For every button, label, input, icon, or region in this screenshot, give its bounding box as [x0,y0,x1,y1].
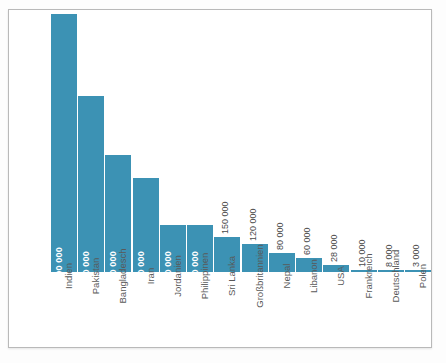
plot-area: 1 100 000750 000500 000400 000200 000200… [21,14,425,341]
category-label-frankreich: Frankreich [364,254,374,299]
bar-slot: 10 000 [351,14,377,272]
category-label-iran: Iran [146,268,156,284]
bar-pakistan[interactable] [78,96,104,272]
category-slot: Großbritannien [242,276,268,358]
category-label-indien: Indien [64,263,74,289]
bar-slot: 400 000 [133,14,159,272]
category-slot: Deutschland [378,276,404,358]
bar-slot: 120 000 [242,14,268,272]
category-label-libanon: Libanon [309,259,319,293]
category-slot: Pakistan [78,276,104,358]
bar-slot: 200 000 [187,14,213,272]
category-label-bangladesch: Bangladesch [118,249,128,304]
category-slot: Iran [133,276,159,358]
bar-value-label: 150 000 [221,201,230,234]
category-label-deutschland: Deutschland [391,250,401,303]
bar-slot: 1 100 000 [51,14,77,272]
bar-slot: 500 000 [105,14,131,272]
bar-indien[interactable] [51,14,77,272]
category-slot: Nepal [269,276,295,358]
category-slot: Bangladesch [105,276,131,358]
bar-value-label: 80 000 [276,223,285,251]
category-slot: Polen [405,276,431,358]
category-label-jordanien: Jordanien [173,255,183,297]
bar-slot: 8 000 [378,14,404,272]
bar-value-label: 60 000 [303,227,312,255]
category-label-gro-britannien: Großbritannien [255,244,265,307]
bar-value-label: 120 000 [249,208,258,241]
bar-slot: 150 000 [214,14,240,272]
bar-slot: 60 000 [296,14,322,272]
bar-value-label: 28 000 [330,235,339,263]
category-slot: Indien [51,276,77,358]
category-slot: Philippinen [187,276,213,358]
chart-frame-border: 1 100 000750 000500 000400 000200 000200… [8,9,432,348]
category-slot: Jordanien [160,276,186,358]
category-label-nepal: Nepal [282,264,292,289]
category-slot: Sri Lanka [214,276,240,358]
category-label-sri-lanka: Sri Lanka [227,256,237,296]
category-slot: Libanon [296,276,322,358]
bar-slot: 80 000 [269,14,295,272]
chart-figure: 1 100 000750 000500 000400 000200 000200… [0,0,446,363]
bars-layer: 1 100 000750 000500 000400 000200 000200… [51,14,431,272]
category-label-pakistan: Pakistan [91,258,101,294]
bar-slot: 750 000 [78,14,104,272]
category-label-philippinen: Philippinen [200,253,210,299]
category-slot: Frankreich [351,276,377,358]
category-axis: IndienPakistanBangladeschIranJordanienPh… [51,272,431,358]
category-label-usa: USA [336,266,346,286]
bar-slot: 28 000 [323,14,349,272]
category-slot: USA [323,276,349,358]
category-label-polen: Polen [418,264,428,288]
bar-slot: 200 000 [160,14,186,272]
bar-slot: 3 000 [405,14,431,272]
